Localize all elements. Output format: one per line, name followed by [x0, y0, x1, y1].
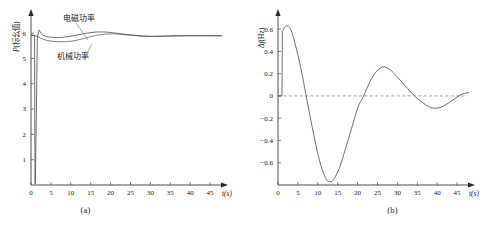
y-tick-label: 0.2 [264, 70, 273, 78]
x-tick-label: 30 [394, 189, 402, 197]
panel-a-y-ticks: 123456 [23, 30, 35, 165]
panel-a: P(标幺值) t(s) 电磁功率 机械功率 051015202530354045… [0, 0, 247, 230]
x-tick-label: 30 [147, 189, 155, 197]
x-tick-label: 40 [187, 189, 195, 197]
curve-mechanical-power [31, 34, 222, 42]
panel-a-annotation-leaders [76, 23, 92, 60]
x-tick-label: 20 [107, 189, 115, 197]
x-tick-label: 10 [67, 189, 75, 197]
panel-b: Δf(Hz) t(s) 051015202530354045 0.60.40.2… [247, 0, 494, 230]
curve-electromagnetic-power [31, 30, 222, 184]
y-tick-label: 3 [23, 105, 27, 113]
panel-b-x-ticks: 051015202530354045 [276, 182, 461, 197]
x-tick-label: 45 [454, 189, 462, 197]
x-tick-label: 45 [207, 189, 215, 197]
panel-a-caption-text: (a) [80, 205, 90, 215]
y-tick-label: 0.6 [264, 26, 273, 34]
x-tick-label: 40 [434, 189, 442, 197]
y-tick-label: −0.4 [260, 137, 273, 145]
x-tick-label: 5 [296, 189, 300, 197]
panel-a-caption: (a) [0, 205, 209, 215]
x-tick-label: 0 [29, 189, 33, 197]
x-tick-label: 15 [87, 189, 95, 197]
y-tick-label: 0.4 [264, 48, 273, 56]
panel-b-plot: 051015202530354045 0.60.40.20−0.2−0.4−0.… [247, 0, 494, 230]
x-tick-label: 35 [414, 189, 422, 197]
x-tick-label: 15 [334, 189, 342, 197]
panel-a-plot: 051015202530354045 123456 [0, 0, 247, 230]
panel-b-curves [278, 26, 469, 182]
curve-frequency-deviation [278, 26, 469, 182]
panel-b-axes [275, 9, 475, 188]
y-tick-label: −0.2 [260, 115, 273, 123]
x-tick-label: 35 [167, 189, 175, 197]
y-tick-label: 4 [23, 80, 27, 88]
y-tick-label: 1 [23, 156, 27, 164]
x-tick-label: 25 [374, 189, 382, 197]
x-tick-label: 10 [314, 189, 322, 197]
x-tick-label: 0 [276, 189, 280, 197]
x-tick-label: 20 [354, 189, 362, 197]
y-tick-label: 6 [23, 30, 27, 38]
panel-b-caption: (b) [269, 205, 494, 215]
panel-b-caption-text: (b) [387, 205, 398, 215]
y-tick-label: −0.6 [260, 159, 273, 167]
x-tick-label: 5 [49, 189, 53, 197]
panel-a-curves [31, 30, 222, 184]
y-tick-label: 0 [270, 92, 274, 100]
figure-root: P(标幺值) t(s) 电磁功率 机械功率 051015202530354045… [0, 0, 494, 230]
y-tick-label: 5 [23, 55, 27, 63]
y-tick-label: 2 [23, 131, 27, 139]
panel-a-x-ticks: 051015202530354045 [29, 182, 214, 197]
x-tick-label: 25 [127, 189, 135, 197]
